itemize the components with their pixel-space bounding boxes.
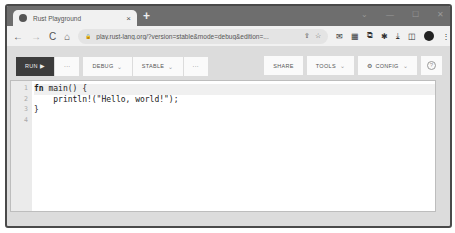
- profile-avatar[interactable]: [424, 31, 434, 41]
- menu-icon[interactable]: ⋮: [442, 32, 450, 41]
- code-line: println!("Hello, world!");: [34, 95, 435, 106]
- config-dropdown[interactable]: ⚙ CONFIG ⌄: [358, 56, 417, 75]
- minimize-icon[interactable]: —: [386, 10, 394, 19]
- advanced-options-button[interactable]: ···: [184, 57, 208, 76]
- url-input[interactable]: 🔒 play.rust-lang.org/?version=stable&mod…: [78, 29, 328, 44]
- home-icon[interactable]: ⌂: [64, 31, 70, 42]
- line-number: 3: [11, 105, 32, 116]
- code-line: }: [34, 105, 435, 116]
- code-text: main() {: [44, 84, 87, 93]
- browser-tab[interactable]: Rust Playground ×: [13, 10, 137, 26]
- code-editor[interactable]: 1 2 3 4 fn main() { println!("Hello, wor…: [10, 80, 436, 212]
- puzzle-extensions-icon[interactable]: ✱: [381, 32, 388, 41]
- chevron-down-icon: ⌄: [168, 63, 173, 70]
- lock-icon[interactable]: 🔒: [85, 33, 91, 39]
- gear-icon: ⚙: [367, 63, 372, 69]
- chevron-down-icon: ⌄: [403, 62, 408, 69]
- code-text: }: [34, 105, 39, 114]
- bookmark-star-icon[interactable]: ☆: [315, 32, 321, 40]
- maximize-icon[interactable]: ☐: [412, 10, 419, 19]
- tab-title: Rust Playground: [33, 15, 126, 22]
- grid-extension-icon[interactable]: ▦: [351, 32, 359, 41]
- help-icon: ?: [427, 61, 436, 70]
- side-panel-icon[interactable]: ◫: [408, 32, 416, 41]
- run-button[interactable]: RUN ▶: [16, 57, 54, 76]
- channel-dropdown[interactable]: STABLE ⌄: [133, 57, 183, 76]
- copy-extension-icon[interactable]: ⧉: [367, 31, 373, 41]
- code-area[interactable]: fn main() { println!("Hello, world!"); }: [32, 81, 435, 211]
- help-button[interactable]: ?: [421, 56, 442, 75]
- run-group: RUN ▶ ···: [16, 57, 79, 76]
- share-button[interactable]: SHARE: [264, 56, 302, 75]
- build-options-group: DEBUG ⌄ STABLE ⌄ ···: [83, 57, 208, 76]
- line-number-gutter: 1 2 3 4: [11, 81, 32, 211]
- url-text: play.rust-lang.org/?version=stable&mode=…: [96, 33, 299, 40]
- new-tab-button[interactable]: +: [143, 9, 150, 23]
- mail-extension-icon[interactable]: ✉: [336, 32, 343, 41]
- line-number: 2: [11, 95, 32, 106]
- back-icon[interactable]: ←: [13, 31, 23, 42]
- stable-label: STABLE: [142, 63, 164, 69]
- chevron-down-icon: ⌄: [117, 63, 122, 70]
- chevron-down-icon: ⌄: [340, 62, 345, 69]
- toolbar-right: SHARE TOOLS ⌄ ⚙ CONFIG ⌄ ?: [264, 56, 442, 75]
- debug-mode-dropdown[interactable]: DEBUG ⌄: [83, 57, 131, 76]
- tools-dropdown[interactable]: TOOLS ⌄: [307, 56, 354, 75]
- extensions-area: ✉ ▦ ⧉ ✱ ⤓ ◫ ⋮: [336, 31, 450, 41]
- tab-search-icon[interactable]: ⌄: [361, 10, 368, 19]
- line-number: 1: [11, 84, 32, 95]
- download-icon[interactable]: ⤓: [396, 31, 400, 41]
- window-controls: ⌄ — ☐ ✕: [361, 10, 444, 19]
- reload-icon[interactable]: C: [49, 31, 56, 42]
- close-window-icon[interactable]: ✕: [437, 10, 444, 19]
- config-label: CONFIG: [375, 63, 398, 69]
- debug-label: DEBUG: [92, 63, 113, 69]
- line-number: 4: [11, 116, 32, 127]
- code-line: [34, 116, 435, 127]
- code-text: println!("Hello, world!");: [34, 95, 179, 104]
- tools-label: TOOLS: [316, 63, 336, 69]
- globe-icon: [19, 14, 27, 22]
- keyword: fn: [34, 84, 44, 93]
- run-more-button[interactable]: ···: [55, 57, 79, 76]
- forward-icon[interactable]: →: [31, 31, 41, 42]
- address-bar-row: ← → C ⌂ 🔒 play.rust-lang.org/?version=st…: [7, 26, 450, 46]
- title-bar: Rust Playground × + ⌄ — ☐ ✕: [7, 6, 450, 26]
- code-line: fn main() {: [34, 84, 435, 95]
- tab-close-icon[interactable]: ×: [126, 14, 131, 23]
- share-page-icon[interactable]: ⇪: [304, 32, 310, 40]
